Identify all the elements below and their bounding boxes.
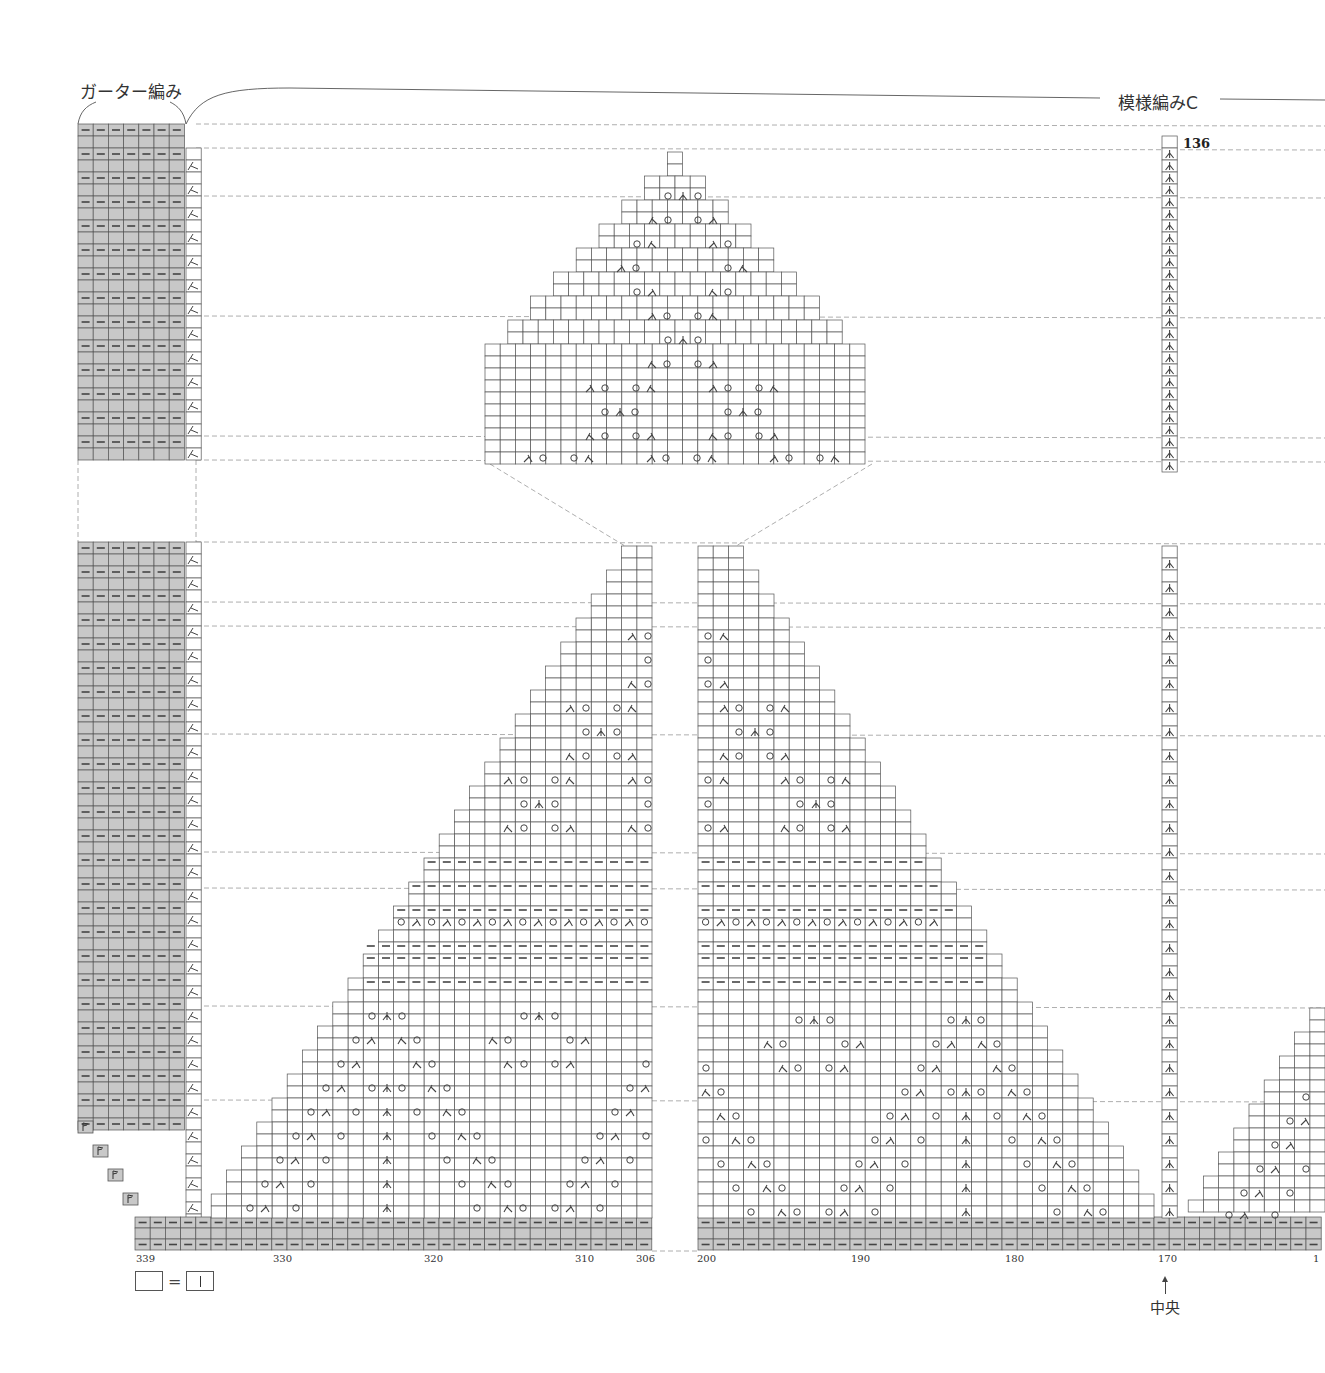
center-marker: 中央	[1147, 1278, 1183, 1317]
arrow-up-icon	[1165, 1278, 1166, 1294]
column-label: 310	[575, 1253, 594, 1264]
column-label: 190	[851, 1253, 870, 1264]
center-label: 中央	[1147, 1296, 1183, 1317]
column-label: 1	[1313, 1253, 1319, 1264]
pattern-c-label: 模様編みC	[1118, 89, 1198, 114]
row-count-label: 136	[1183, 136, 1210, 151]
column-label: 170	[1158, 1253, 1177, 1264]
column-label: 180	[1005, 1253, 1024, 1264]
column-label: 330	[273, 1253, 292, 1264]
garter-stitch-label: ガーター編み	[80, 78, 182, 103]
legend-knit-cell	[186, 1271, 214, 1291]
legend-blank-cell	[135, 1271, 163, 1291]
grid	[78, 124, 1325, 1250]
column-label: 339	[136, 1253, 155, 1264]
legend: =	[135, 1271, 214, 1291]
column-label: 200	[697, 1253, 716, 1264]
column-label: 320	[424, 1253, 443, 1264]
knitting-chart	[0, 0, 1325, 1373]
column-label: 306	[636, 1253, 655, 1264]
legend-equals: =	[168, 1272, 181, 1291]
